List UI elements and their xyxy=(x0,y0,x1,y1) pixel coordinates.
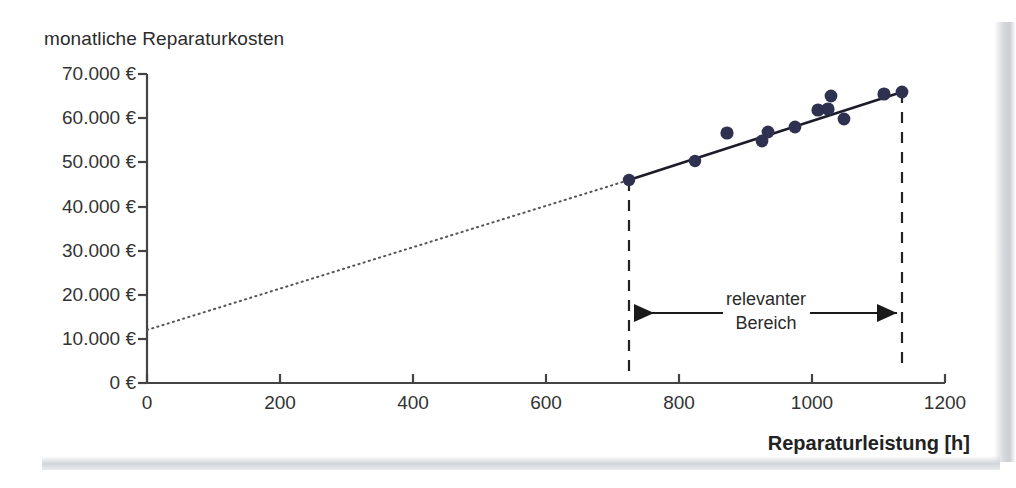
data-point xyxy=(825,90,838,103)
data-point xyxy=(896,86,909,99)
x-tick-label: 1200 xyxy=(924,392,966,414)
data-points xyxy=(623,86,909,187)
x-tick-label: 400 xyxy=(397,392,429,414)
y-axis-ticks xyxy=(138,74,147,383)
x-axis-ticks xyxy=(147,374,945,383)
y-tick-label: 60.000 € xyxy=(62,107,136,129)
y-tick-label: 0 € xyxy=(110,372,136,394)
y-tick-label: 40.000 € xyxy=(62,196,136,218)
data-point xyxy=(762,126,775,139)
figure-container: monatliche Reparaturkosten xyxy=(0,0,1016,488)
x-tick-label: 1000 xyxy=(791,392,833,414)
x-tick-label: 800 xyxy=(663,392,695,414)
y-tick-label: 30.000 € xyxy=(62,240,136,262)
x-tick-label: 200 xyxy=(264,392,296,414)
y-tick-label: 70.000 € xyxy=(62,63,136,85)
x-tick-label: 0 xyxy=(142,392,153,414)
data-point xyxy=(877,87,890,100)
x-tick-label: 600 xyxy=(530,392,562,414)
data-point xyxy=(623,174,635,186)
scatter-plot xyxy=(0,0,1016,488)
range-annotation-line1: relevanter xyxy=(726,289,806,310)
y-tick-label: 20.000 € xyxy=(62,284,136,306)
y-tick-label: 10.000 € xyxy=(62,328,136,350)
data-point xyxy=(720,126,733,139)
range-annotation-line2: Bereich xyxy=(735,313,796,334)
extrapolation-dotted-line xyxy=(147,180,629,330)
data-point xyxy=(789,121,802,134)
y-tick-label: 50.000 € xyxy=(62,151,136,173)
x-axis-title: Reparaturleistung [h] xyxy=(768,432,970,455)
data-point xyxy=(821,102,834,115)
data-point xyxy=(838,113,851,126)
data-point xyxy=(689,155,701,167)
